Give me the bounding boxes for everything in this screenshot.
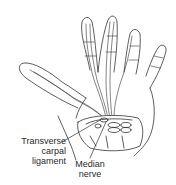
label-median-nerve: Median nerve xyxy=(70,159,110,179)
label-line: nerve xyxy=(70,169,110,179)
label-line: ligament xyxy=(10,156,66,166)
label-line: Transverse xyxy=(10,136,66,146)
carpal-tunnel-cross-section xyxy=(78,115,143,150)
label-line: carpal xyxy=(10,146,66,156)
hand-diagram: Transverse carpal ligament Median nerve xyxy=(0,0,176,185)
label-transverse-carpal-ligament: Transverse carpal ligament xyxy=(10,136,66,166)
label-line: Median xyxy=(70,159,110,169)
flexor-tendons xyxy=(30,22,163,120)
